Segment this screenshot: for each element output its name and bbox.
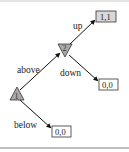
game-tree-diagram: up above down below 1 2 1,1 0,0 0,0 xyxy=(0,0,129,152)
node-label-1: 1 xyxy=(15,92,19,101)
payoff-text: 1,1 xyxy=(100,12,111,22)
payoff-text: 0,0 xyxy=(102,80,113,90)
edge-label-up: up xyxy=(73,21,83,31)
leaf-up: 1,1 xyxy=(96,11,116,22)
payoff-text: 0,0 xyxy=(55,127,66,137)
node-label-2: 2 xyxy=(63,44,67,53)
edge-label-down: down xyxy=(60,68,81,78)
edge-label-above: above xyxy=(17,65,40,75)
edge-label-below: below xyxy=(14,120,37,130)
decision-node-1: 1 xyxy=(10,87,24,101)
decision-node-2: 2 xyxy=(58,44,72,57)
leaf-down: 0,0 xyxy=(99,79,118,90)
leaf-below: 0,0 xyxy=(52,126,71,137)
